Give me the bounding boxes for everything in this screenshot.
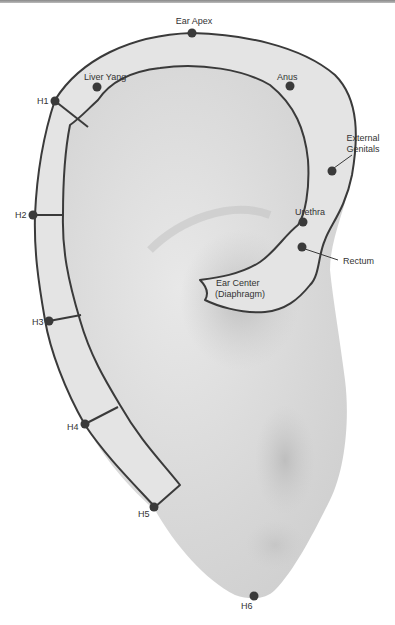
label-anus: Anus	[277, 72, 298, 82]
label-h1: H1	[37, 96, 49, 106]
label-ear-center-2: (Diaphragm)	[215, 289, 265, 299]
label-h4: H4	[67, 422, 79, 432]
label-rectum: Rectum	[343, 256, 374, 266]
point-urethra	[299, 218, 308, 227]
point-liver-yang	[93, 83, 102, 92]
label-h3: H3	[32, 317, 44, 327]
point-anus	[286, 82, 295, 91]
label-liver-yang: Liver Yang	[84, 72, 126, 82]
label-external-genitals-1: External	[338, 133, 388, 143]
label-h2: H2	[15, 210, 27, 220]
label-ear-apex: Ear Apex	[170, 16, 218, 26]
label-h5: H5	[138, 509, 150, 519]
label-h6: H6	[241, 601, 253, 611]
point-h2	[29, 211, 38, 220]
point-h6	[250, 592, 259, 601]
ear-diagram	[0, 0, 395, 625]
point-external-genitals	[328, 167, 337, 176]
point-rectum	[298, 243, 307, 252]
label-external-genitals-2: Genitals	[338, 144, 388, 154]
point-h4	[81, 420, 90, 429]
point-h5	[150, 503, 159, 512]
point-ear-apex	[188, 29, 197, 38]
point-h3	[45, 317, 54, 326]
point-h1	[51, 97, 60, 106]
label-ear-center-1: Ear Center	[216, 278, 260, 288]
label-urethra: Urethra	[295, 207, 325, 217]
